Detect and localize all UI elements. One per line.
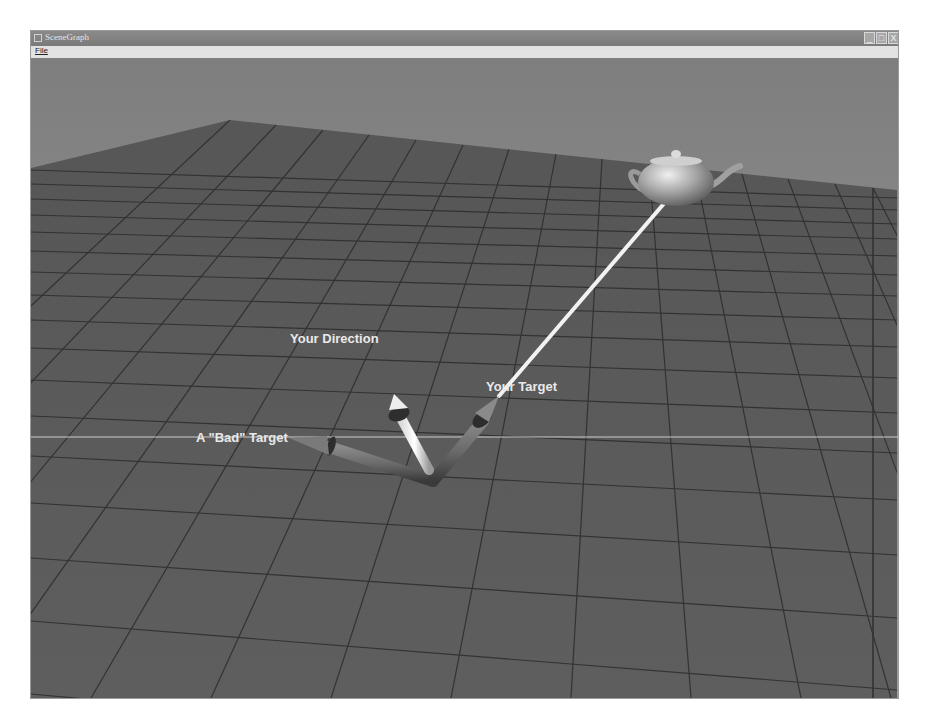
label-bad-target: A "Bad" Target — [196, 430, 288, 445]
menu-file[interactable]: File — [35, 46, 48, 55]
menu-bar: File — [31, 46, 898, 58]
scenegraph-window: SceneGraph _ □ X File — [31, 31, 898, 698]
app-icon — [34, 34, 42, 42]
minimize-button[interactable]: _ — [864, 32, 875, 44]
3d-viewport[interactable]: Your Direction Your Target A "Bad" Targe… — [31, 58, 898, 698]
title-bar[interactable]: SceneGraph _ □ X — [31, 31, 898, 46]
maximize-button[interactable]: □ — [876, 32, 887, 44]
scene-canvas[interactable] — [31, 58, 898, 698]
window-title: SceneGraph — [45, 32, 89, 42]
label-your-direction: Your Direction — [290, 331, 379, 346]
label-your-target: Your Target — [486, 379, 557, 394]
close-button[interactable]: X — [888, 32, 898, 44]
